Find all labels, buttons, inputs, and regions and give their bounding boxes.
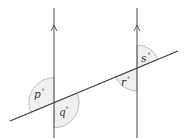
angle-p-degree: ° — [42, 87, 45, 94]
angle-q-degree: ° — [66, 105, 69, 112]
angle-p-label: p — [34, 88, 41, 100]
angle-p-arc — [29, 78, 54, 113]
angle-s-degree: ° — [148, 51, 151, 58]
parallel-lines-diagram: p ° q ° r ° s ° — [0, 0, 188, 138]
angle-s-label: s — [141, 52, 147, 64]
angle-r-degree: ° — [127, 75, 130, 82]
